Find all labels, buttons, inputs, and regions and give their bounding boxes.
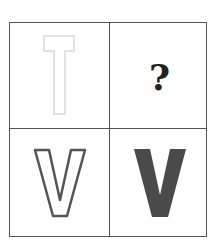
cell-top-left xyxy=(10,23,109,128)
cell-top-right: ? xyxy=(110,23,209,128)
cell-bottom-left xyxy=(10,129,109,236)
outline-t-glyph xyxy=(40,34,80,118)
cell-bottom-right xyxy=(110,129,209,236)
solid-v-glyph xyxy=(134,149,186,217)
outline-v-glyph xyxy=(33,148,87,218)
puzzle-grid: ? xyxy=(9,22,207,237)
question-mark: ? xyxy=(149,59,170,95)
